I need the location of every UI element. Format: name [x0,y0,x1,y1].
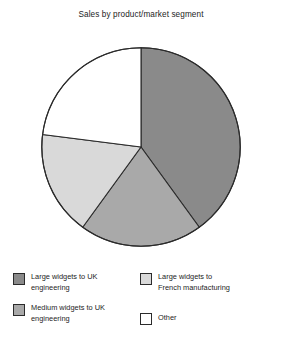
legend-swatch-icon [13,304,25,316]
legend-item-label: Medium widgets to UK engineering [31,303,105,324]
legend-label-line-2: engineering [31,283,70,292]
legend-label-line-2: French manufacturing [158,283,230,292]
legend-item-medium-widgets-uk-engineering[interactable]: Medium widgets to UK engineering [13,303,140,334]
pie-slice[interactable] [43,48,141,147]
legend-label-line-1: Large widgets to UK [31,272,98,281]
legend-item-label: Large widgets to UK engineering [31,272,98,293]
legend-label-line-1: Other [158,313,176,322]
chart-title: Sales by product/market segment [0,10,282,19]
legend-label-line-1: Large widgets to [158,272,212,281]
legend-swatch-icon [13,273,25,285]
pie-chart [41,47,241,247]
legend-label-line-2: engineering [31,314,70,323]
legend-label-line-1: Medium widgets to UK [31,303,105,312]
legend-swatch-icon [140,313,152,325]
legend: Large widgets to UK engineering Large wi… [13,272,277,334]
legend-item-large-widgets-french-manufacturing[interactable]: Large widgets to French manufacturing [140,272,277,303]
legend-item-label: Other [158,313,176,324]
pie-slice-group [42,48,240,246]
legend-swatch-icon [140,273,152,285]
pie-chart-svg [41,47,241,247]
legend-item-label: Large widgets to French manufacturing [158,272,230,293]
legend-item-large-widgets-uk-engineering[interactable]: Large widgets to UK engineering [13,272,140,303]
legend-item-other[interactable]: Other [140,303,277,334]
